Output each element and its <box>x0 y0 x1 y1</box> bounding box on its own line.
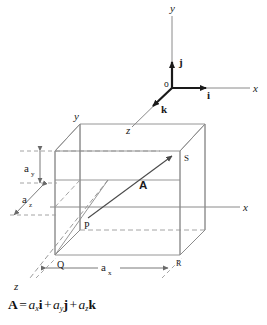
dim-label-az-base: a <box>22 193 27 205</box>
unit-vector-k-label: k <box>161 103 168 115</box>
dim-line-az <box>14 186 42 215</box>
dim-label-ax-base: a <box>101 261 106 273</box>
box-edge-p-left-diagonal <box>55 180 80 207</box>
vertex-label-q: Q <box>57 259 65 270</box>
vector-a-arrow <box>88 156 172 218</box>
box-x-axis-label: x <box>242 201 248 213</box>
dim-label-ay: a y <box>24 162 35 178</box>
figure-canvas: y x z j i k o <box>0 0 267 325</box>
unit-vector-i-label: i <box>207 89 210 101</box>
vector-a-label: A <box>139 179 147 191</box>
vector-components-figure: y x z j i k o <box>0 0 267 325</box>
vertex-label-s: S <box>184 153 189 163</box>
vertex-label-p: P <box>84 220 90 231</box>
triad-x-axis-label: x <box>252 82 258 94</box>
box-edge-r-depth <box>180 230 205 255</box>
triad-origin-label: o <box>164 79 169 89</box>
box-edge-s-to-back-top <box>180 124 205 151</box>
triad-z-axis-label: z <box>125 124 131 136</box>
dim-label-az-sub: z <box>29 201 32 209</box>
dim-label-ax-sub: x <box>108 269 112 277</box>
equation-equals: = <box>18 297 29 312</box>
dim-label-ay-base: a <box>24 162 29 174</box>
equation-term2-coef: a <box>53 297 60 312</box>
equation-plus-1: + <box>42 297 53 312</box>
unit-vector-triad-group: y x z j i k o <box>125 2 258 136</box>
equation-plus-2: + <box>68 297 79 312</box>
box-diagram-group: y x z P Q R S A a y a z a x <box>10 110 248 292</box>
vertex-label-r: R <box>176 259 182 268</box>
unit-vector-j-label: j <box>178 56 183 68</box>
triad-y-axis-label: y <box>169 2 175 14</box>
box-edge-q-to-p-diagonal <box>55 180 108 255</box>
box-z-axis <box>30 180 108 278</box>
vector-equation: A=axi+ayj+azk <box>8 297 96 313</box>
dim-label-ay-sub: y <box>31 170 35 178</box>
box-edge-inner-q <box>55 230 80 255</box>
dim-label-ax: a x <box>98 258 120 277</box>
equation-term3-unit: k <box>88 297 96 312</box>
equation-lhs: A <box>8 297 18 312</box>
box-y-axis-label: y <box>73 110 79 122</box>
box-edge-depth-upper-left <box>55 124 80 151</box>
box-z-axis-label: z <box>13 280 19 292</box>
